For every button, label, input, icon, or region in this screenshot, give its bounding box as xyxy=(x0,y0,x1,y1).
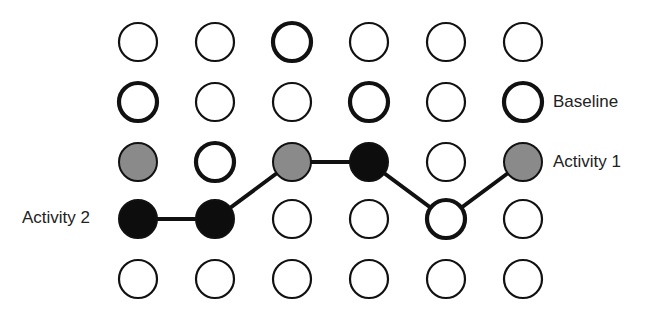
node-circle-thin xyxy=(119,260,157,298)
node-circle-gray xyxy=(273,143,311,181)
node-circle-thin xyxy=(273,200,311,238)
node-circle-thin xyxy=(350,260,388,298)
label-activity-1: Activity 1 xyxy=(553,152,621,172)
node-circle-gray xyxy=(504,143,542,181)
node-circle-thin xyxy=(504,23,542,61)
node-circle-thick xyxy=(350,83,388,121)
node-circle-black xyxy=(196,200,234,238)
node-circle-thin xyxy=(427,260,465,298)
node-circle-thin xyxy=(196,23,234,61)
node-circle-thick xyxy=(273,23,311,61)
node-circle-thin xyxy=(427,23,465,61)
node-circle-thick xyxy=(119,83,157,121)
node-circle-thin xyxy=(350,200,388,238)
node-circle-thin xyxy=(504,200,542,238)
node-circle-thin xyxy=(196,83,234,121)
node-circle-thin xyxy=(196,260,234,298)
node-circle-thin xyxy=(427,83,465,121)
label-activity-2: Activity 2 xyxy=(22,208,90,228)
node-circle-thick xyxy=(427,200,465,238)
node-circle-thin xyxy=(504,260,542,298)
node-circle-black xyxy=(119,200,157,238)
node-circle-thin xyxy=(350,23,388,61)
node-circle-thin xyxy=(273,83,311,121)
node-circle-thin xyxy=(273,260,311,298)
node-circle-thick xyxy=(196,143,234,181)
node-circle-thick xyxy=(504,83,542,121)
node-circle-thin xyxy=(427,143,465,181)
label-baseline: Baseline xyxy=(553,92,618,112)
node-circle-thin xyxy=(119,23,157,61)
node-circle-black xyxy=(350,143,388,181)
node-circle-gray xyxy=(119,143,157,181)
